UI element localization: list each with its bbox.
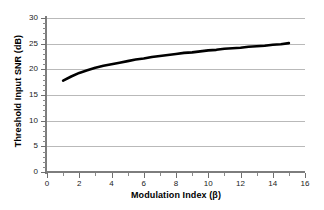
y-axis-minor-tick: [43, 64, 46, 65]
y-axis-tick: [41, 69, 46, 70]
y-axis-minor-tick: [43, 80, 46, 81]
x-axis-tick: [79, 173, 80, 178]
y-axis-tick: [41, 44, 46, 45]
y-axis-minor-tick: [43, 116, 46, 117]
y-axis-minor-tick: [43, 131, 46, 132]
x-axis-tick-label: 0: [37, 180, 57, 188]
x-axis-minor-tick: [192, 173, 193, 176]
y-axis-minor-tick: [43, 33, 46, 34]
x-axis-tick-label: 8: [166, 180, 186, 188]
y-axis-minor-tick: [43, 162, 46, 163]
y-axis-minor-tick: [43, 59, 46, 60]
y-axis-minor-tick: [43, 75, 46, 76]
x-axis-minor-tick: [160, 173, 161, 176]
x-axis-minor-tick: [224, 173, 225, 176]
x-axis-minor-tick: [289, 173, 290, 176]
y-axis-minor-tick: [43, 167, 46, 168]
x-axis-minor-tick: [128, 173, 129, 176]
y-axis-minor-tick: [43, 28, 46, 29]
x-axis-tick: [305, 173, 306, 178]
x-axis-tick: [273, 173, 274, 178]
x-axis-tick-label: 2: [69, 180, 89, 188]
y-axis-tick: [41, 95, 46, 96]
y-axis-minor-tick: [43, 90, 46, 91]
x-axis-tick-label: 16: [295, 180, 315, 188]
y-axis-minor-tick: [43, 152, 46, 153]
y-axis-tick: [41, 121, 46, 122]
y-axis-minor-tick: [43, 54, 46, 55]
y-axis-minor-tick: [43, 105, 46, 106]
y-axis-minor-tick: [43, 136, 46, 137]
x-axis-minor-tick: [257, 173, 258, 176]
y-axis-minor-tick: [43, 23, 46, 24]
y-axis-minor-tick: [43, 126, 46, 127]
x-axis-title: Modulation Index (β): [47, 190, 305, 200]
x-axis-minor-tick: [63, 173, 64, 176]
y-axis-minor-tick: [43, 49, 46, 50]
y-axis-minor-tick: [43, 157, 46, 158]
y-axis-title: Threshold Input SNR (dB): [13, 11, 23, 171]
y-axis-minor-tick: [43, 110, 46, 111]
x-axis-tick-label: 10: [198, 180, 218, 188]
plot-area: [47, 18, 305, 172]
x-axis-tick: [47, 173, 48, 178]
series-line-threshold-input-snr: [47, 18, 305, 172]
x-axis-tick: [112, 173, 113, 178]
y-axis-minor-tick: [43, 85, 46, 86]
y-axis-tick: [41, 172, 46, 173]
chart-container: 0510152025300246810121416 Modulation Ind…: [0, 0, 324, 210]
x-axis-minor-tick: [95, 173, 96, 176]
x-axis-tick-label: 12: [231, 180, 251, 188]
x-axis-tick: [176, 173, 177, 178]
y-axis-tick: [41, 146, 46, 147]
x-axis-tick-label: 14: [263, 180, 283, 188]
x-axis-tick-label: 6: [134, 180, 154, 188]
y-axis-tick: [41, 18, 46, 19]
x-axis-line: [45, 171, 305, 173]
x-axis-tick: [208, 173, 209, 178]
x-axis-tick-label: 4: [102, 180, 122, 188]
x-axis-tick: [144, 173, 145, 178]
y-axis-minor-tick: [43, 141, 46, 142]
y-axis-minor-tick: [43, 100, 46, 101]
y-axis-minor-tick: [43, 39, 46, 40]
x-axis-tick: [241, 173, 242, 178]
